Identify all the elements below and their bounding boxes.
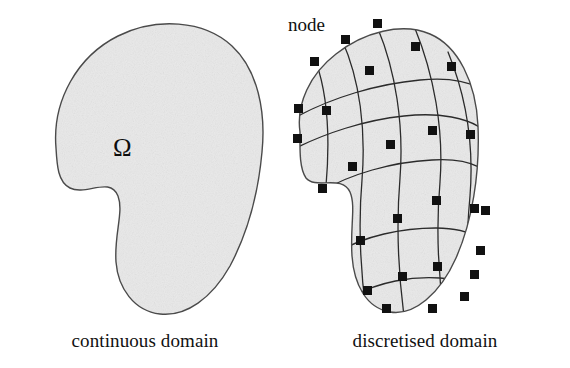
discretised-domain-shape — [299, 29, 478, 313]
node-marker — [356, 236, 365, 245]
node-marker — [294, 104, 303, 113]
node-marker — [293, 134, 302, 143]
node-marker — [428, 126, 437, 135]
node-marker — [322, 106, 331, 115]
node-marker — [460, 292, 469, 301]
node-marker — [481, 206, 490, 215]
node-marker — [363, 286, 372, 295]
node-marker — [310, 57, 319, 66]
node-marker — [428, 304, 437, 313]
panel-continuous-domain: Ω — [0, 0, 290, 368]
node-marker — [318, 184, 327, 193]
node-marker — [470, 270, 479, 279]
node-marker — [466, 130, 475, 139]
node-marker — [393, 214, 402, 223]
omega-symbol-label: Ω — [113, 134, 132, 162]
caption-continuous-domain: continuous domain — [0, 330, 290, 352]
panel-discretised-domain: Ωel — [280, 0, 570, 368]
node-marker — [382, 304, 391, 313]
fem-domain-figure: Ω continuous domain — [0, 0, 570, 368]
node-marker — [348, 162, 357, 171]
discretised-domain-svg — [280, 0, 570, 330]
node-marker — [447, 62, 456, 71]
node-marker — [433, 262, 442, 271]
node-marker — [476, 246, 485, 255]
caption-discretised-domain: discretised domain — [280, 330, 570, 352]
node-annotation-label: node — [288, 14, 325, 36]
node-marker — [365, 66, 374, 75]
node-marker — [432, 196, 441, 205]
continuous-domain-svg — [0, 0, 290, 330]
node-marker — [386, 140, 395, 149]
node-marker — [470, 204, 479, 213]
node-marker — [341, 35, 350, 44]
node-marker — [398, 272, 407, 281]
continuous-domain-shape — [56, 24, 263, 315]
node-marker — [411, 42, 420, 51]
node-marker — [373, 19, 382, 28]
